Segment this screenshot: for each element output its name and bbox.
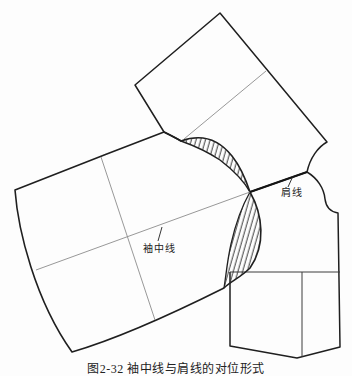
sleeve-center-line-label: 袖中线: [143, 243, 176, 254]
figure-caption: 图2-32 袖中线与肩线的对位形式: [0, 363, 352, 375]
sleeve-center-line-leader: [158, 227, 162, 241]
shoulder-line-label: 肩线: [281, 187, 303, 198]
sleeve-outline: [15, 132, 261, 352]
sleeve-center-line: [36, 192, 250, 270]
sleeve-vertical-grid-line: [101, 157, 155, 320]
back-bodice-internal-line: [184, 71, 266, 139]
upper-overlap-crescent: [181, 138, 250, 192]
